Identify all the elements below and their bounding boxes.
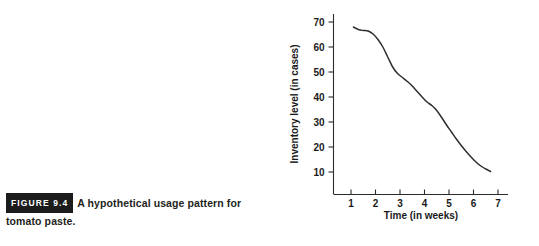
x-tick-label: 4 xyxy=(422,198,428,209)
x-axis-ticks: 1234567 xyxy=(348,190,501,209)
y-tick-label: 50 xyxy=(313,67,325,78)
y-tick-label: 60 xyxy=(313,42,325,53)
x-tick-label: 7 xyxy=(495,198,501,209)
figure-caption: FIGURE 9.4A hypothetical usage pattern f… xyxy=(6,193,256,229)
x-tick-label: 2 xyxy=(373,198,379,209)
line-chart-svg: 10203040506070 1234567 Time (in weeks) I… xyxy=(280,0,539,246)
y-tick-label: 10 xyxy=(313,167,325,178)
x-tick-label: 5 xyxy=(446,198,452,209)
y-tick-label: 70 xyxy=(313,17,325,28)
x-axis-title: Time (in weeks) xyxy=(384,210,458,221)
figure-number-badge: FIGURE 9.4 xyxy=(6,193,73,213)
chart-figure: 10203040506070 1234567 Time (in weeks) I… xyxy=(280,0,539,246)
x-tick-label: 6 xyxy=(471,198,477,209)
caption-line: FIGURE 9.4A hypothetical usage pattern f… xyxy=(6,193,256,229)
y-tick-label: 40 xyxy=(313,92,325,103)
inventory-level-curve xyxy=(353,27,490,172)
y-tick-label: 30 xyxy=(313,117,325,128)
y-axis-ticks: 10203040506070 xyxy=(313,17,333,178)
x-tick-label: 1 xyxy=(348,198,354,209)
y-axis-title: Inventory level (in cases) xyxy=(289,45,300,164)
x-tick-label: 3 xyxy=(397,198,403,209)
y-tick-label: 20 xyxy=(313,142,325,153)
